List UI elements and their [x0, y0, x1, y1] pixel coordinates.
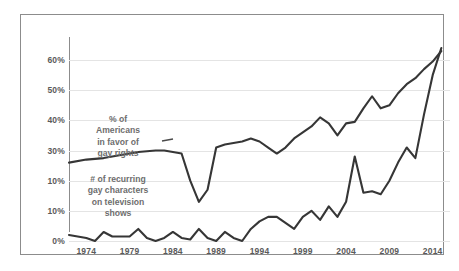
x-tick-label: 1979 [108, 247, 152, 256]
annotation-gay-characters: # of recurring gay characters on televis… [69, 174, 167, 220]
x-tick-label: 1994 [238, 247, 282, 256]
x-axis-tick-labels: 1974 1979 1984 1989 1994 1999 2004 2009 … [69, 247, 450, 261]
x-tick-label: 1989 [194, 247, 238, 256]
annotation-americans-favor: % of Americans in favor of gay rights [75, 114, 161, 160]
x-tick-label: 2014 [411, 247, 455, 256]
x-tick-label: 1974 [64, 247, 108, 256]
x-tick-label: 2009 [367, 247, 411, 256]
y-tick-label: 0% [25, 237, 65, 246]
y-tick-label: 10% [25, 207, 65, 216]
x-tick-label: 1984 [151, 247, 195, 256]
y-tick-label: 50% [25, 86, 65, 95]
y-tick-label: 60% [25, 56, 65, 65]
y-axis-tick-labels: 60% 50% 40% 30% 10% 10% 0% [21, 15, 65, 256]
y-tick-label: 10% [25, 177, 65, 186]
y-tick-label: 30% [25, 147, 65, 156]
chart-figure: 60% 50% 40% 30% 10% 10% 0% % of American… [0, 0, 459, 271]
gridline [69, 241, 450, 242]
chart-frame: 60% 50% 40% 30% 10% 10% 0% % of American… [20, 14, 444, 255]
y-tick-label: 40% [25, 116, 65, 125]
x-tick-label: 2004 [324, 247, 368, 256]
x-tick-label: 1999 [281, 247, 325, 256]
